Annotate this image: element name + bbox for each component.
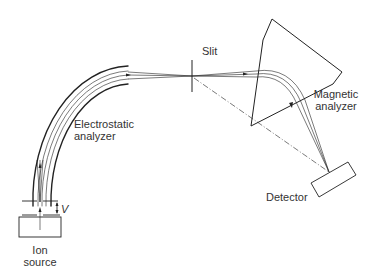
diagram-graphics xyxy=(0,0,369,276)
beam-arrow-icon xyxy=(39,163,42,168)
mass-spectrometer-diagram: Electrostatic analyzer Slit Magnetic ana… xyxy=(0,0,369,276)
ion-beam-magnet xyxy=(256,70,329,172)
beam-arrow-icon xyxy=(126,74,131,77)
electrostatic-label-1: Electrostatic xyxy=(74,118,134,130)
magnetic-label-2: analyzer xyxy=(306,100,366,112)
slit-label: Slit xyxy=(202,45,217,57)
ion-source-label-2: source xyxy=(20,256,60,268)
voltage-label: V xyxy=(61,203,68,215)
beam-arrow-icon xyxy=(243,73,248,76)
electrostatic-label-2: analyzer xyxy=(74,130,116,142)
voltage-arrow-up-icon xyxy=(56,202,59,206)
beam-arrow-icon xyxy=(289,102,293,108)
detector xyxy=(311,162,356,197)
ion-source-label-1: Ion xyxy=(20,244,60,256)
voltage-arrow-down-icon xyxy=(56,210,59,214)
magnetic-label-1: Magnetic xyxy=(306,88,366,100)
source-arrow-icon xyxy=(39,207,42,212)
detector-label: Detector xyxy=(266,191,308,203)
